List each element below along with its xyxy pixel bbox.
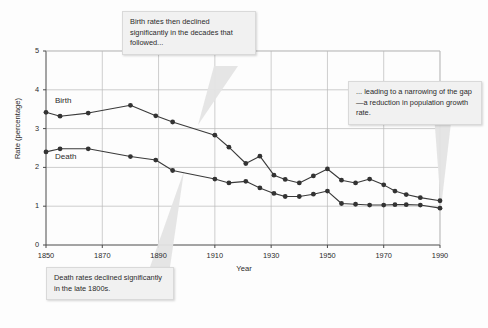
data-point-birth-1965 — [367, 177, 372, 182]
x-tick-label-1850: 1850 — [29, 251, 63, 260]
data-point-death-1955 — [339, 201, 344, 206]
y-tick-label-0: 0 — [25, 240, 39, 249]
y-tick-label-2: 2 — [25, 162, 39, 171]
data-point-birth-1935 — [283, 177, 288, 182]
data-point-birth-1880 — [128, 103, 133, 108]
series-label-birth: Birth — [55, 96, 71, 105]
data-point-death-1950 — [325, 189, 330, 194]
series-line-death — [46, 149, 440, 208]
data-point-death-1880 — [128, 154, 133, 159]
data-point-death-1960 — [353, 202, 358, 207]
data-point-birth-1960 — [353, 181, 358, 186]
data-point-death-1889 — [153, 158, 158, 163]
data-point-birth-1889 — [153, 113, 158, 118]
data-point-death-1974 — [393, 202, 398, 207]
y-tick-label-1: 1 — [25, 201, 39, 210]
data-point-birth-1983 — [418, 195, 423, 200]
callout-tail-birth — [198, 66, 238, 125]
data-point-birth-1910 — [212, 133, 217, 138]
data-point-death-1945 — [311, 192, 316, 197]
data-point-death-1965 — [367, 203, 372, 208]
data-point-death-1850 — [44, 149, 49, 154]
data-point-death-1983 — [418, 203, 423, 208]
data-point-birth-1921 — [243, 161, 248, 166]
x-tick-label-1970: 1970 — [367, 251, 401, 260]
data-point-death-1895 — [170, 168, 175, 173]
data-point-birth-1915 — [227, 145, 232, 150]
data-point-birth-1865 — [86, 111, 91, 116]
x-tick-label-1990: 1990 — [423, 251, 457, 260]
data-point-death-1865 — [86, 146, 91, 151]
data-point-birth-1895 — [170, 120, 175, 125]
callout-narrowing-gap: ... leading to a narrowing of the gap—a … — [348, 81, 482, 125]
data-point-death-1978 — [404, 202, 409, 207]
data-point-death-1926 — [257, 186, 262, 191]
data-point-death-1940 — [297, 194, 302, 199]
chart-figure: Rate (percentage) Year 012345 1850187018… — [0, 0, 488, 328]
x-tick-label-1890: 1890 — [142, 251, 176, 260]
data-point-death-1970 — [381, 203, 386, 208]
data-point-birth-1974 — [393, 189, 398, 194]
x-tick-label-1950: 1950 — [310, 251, 344, 260]
x-tick-label-1870: 1870 — [85, 251, 119, 260]
series-label-death: Death — [55, 152, 76, 161]
data-point-birth-1955 — [339, 178, 344, 183]
callout-birth-rates: Birth rates then declined significantly … — [122, 11, 256, 55]
data-point-death-1931 — [272, 191, 277, 196]
callout-death-rates: Death rates declined significantly in th… — [46, 267, 174, 300]
x-tick-label-1910: 1910 — [198, 251, 232, 260]
data-point-death-1910 — [212, 177, 217, 182]
y-axis-title: Rate (percentage) — [13, 79, 22, 179]
data-point-death-1915 — [227, 181, 232, 186]
callout-tail-gap — [434, 114, 452, 208]
data-point-birth-1950 — [325, 167, 330, 172]
data-point-birth-1970 — [381, 182, 386, 187]
y-tick-label-3: 3 — [25, 124, 39, 133]
data-point-death-1921 — [243, 179, 248, 184]
data-point-death-1990 — [438, 206, 443, 211]
data-point-birth-1990 — [438, 198, 443, 203]
y-tick-label-5: 5 — [25, 46, 39, 55]
data-point-birth-1855 — [58, 114, 63, 119]
data-point-birth-1945 — [311, 174, 316, 179]
data-point-birth-1940 — [297, 181, 302, 186]
data-point-death-1935 — [283, 194, 288, 199]
data-point-birth-1931 — [272, 173, 277, 178]
data-point-death-1855 — [58, 146, 63, 151]
data-point-birth-1926 — [257, 154, 262, 159]
data-point-birth-1978 — [404, 192, 409, 197]
data-point-birth-1850 — [44, 110, 49, 115]
x-tick-label-1930: 1930 — [254, 251, 288, 260]
y-tick-label-4: 4 — [25, 85, 39, 94]
